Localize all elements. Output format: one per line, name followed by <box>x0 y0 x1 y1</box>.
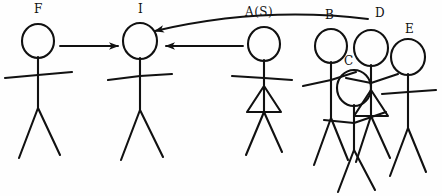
figure-leg-right <box>371 116 390 158</box>
figure-label-B: B <box>325 8 334 22</box>
stick-figure-B[interactable] <box>303 29 356 165</box>
figure-head <box>315 29 347 63</box>
figure-leg-left <box>121 110 140 160</box>
figure-label-C: C <box>344 54 354 68</box>
figure-label-D: D <box>375 6 385 20</box>
figure-head <box>248 27 280 61</box>
figure-arm-left <box>5 75 38 78</box>
figure-head <box>22 24 54 58</box>
figure-arm-left <box>303 80 331 86</box>
figure-leg-left <box>314 118 331 165</box>
figure-leg-right <box>331 118 348 160</box>
figure-arm-right <box>38 72 72 75</box>
figure-leg-left <box>390 128 408 176</box>
diagram-canvas <box>0 0 442 196</box>
figure-arm-right <box>371 74 398 83</box>
figure-arm-left <box>346 78 371 83</box>
figure-arm-right <box>140 74 172 76</box>
figure-leg-right <box>408 128 426 172</box>
figure-leg-left <box>246 112 264 155</box>
figure-arm-left <box>382 92 408 94</box>
figure-leg-right <box>38 108 60 155</box>
figure-arm-right <box>408 90 436 92</box>
figure-head <box>337 70 371 106</box>
figure-leg-right <box>264 112 282 152</box>
figure-head <box>391 39 425 75</box>
figures-layer <box>5 23 436 192</box>
arrows-layer <box>60 15 368 46</box>
stick-figure-diagram: FIA(S)BCDE <box>0 0 442 196</box>
figure-arm-left <box>108 76 140 80</box>
figure-label-E: E <box>405 22 414 36</box>
figure-head <box>123 23 157 59</box>
figure-arm-right <box>264 78 292 80</box>
figure-leg-left <box>19 108 38 158</box>
stick-figure-F[interactable] <box>5 24 72 158</box>
stick-figure-I[interactable] <box>108 23 172 160</box>
stick-figure-E[interactable] <box>382 39 436 176</box>
figure-head <box>354 30 388 66</box>
figure-leg-right <box>140 110 163 157</box>
figure-label-I: I <box>138 2 143 16</box>
figure-label-AS: A(S) <box>245 5 273 19</box>
figure-arm-left <box>232 76 264 78</box>
figure-label-F: F <box>34 2 43 16</box>
figure-leg-left <box>356 116 371 162</box>
